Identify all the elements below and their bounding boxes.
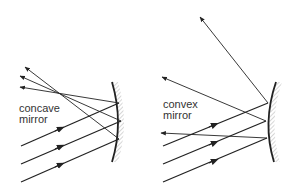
mirror-diagram xyxy=(0,0,296,195)
concave-incident-ray-3 xyxy=(21,139,119,182)
convex-label: convex mirror xyxy=(163,99,198,121)
concave-label-line2: mirror xyxy=(19,114,60,125)
convex-reflected-ray-3 xyxy=(161,133,267,138)
concave-incident-ray-2 xyxy=(21,121,121,164)
convex-reflected-ray-1 xyxy=(200,17,268,103)
arrow-icon xyxy=(55,164,61,167)
concave-label: concave mirror xyxy=(19,103,60,125)
arrow-icon xyxy=(55,128,61,131)
convex-incident-ray-3 xyxy=(163,138,267,182)
convex-label-line2: mirror xyxy=(163,110,198,121)
